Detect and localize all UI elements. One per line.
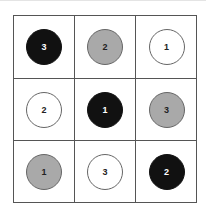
disc-white: 1 [149,29,185,65]
disc-white: 3 [87,154,123,190]
disc-label: 3 [102,167,107,177]
top-divider [0,0,206,1]
grid-cell-r3-c3[interactable]: 2 [136,141,197,203]
disc-gray: 1 [26,154,62,190]
grid-cell-r3-c2[interactable]: 3 [75,141,136,203]
puzzle-grid: 3 2 1 2 1 3 1 3 2 [13,15,197,203]
grid-cell-r1-c1[interactable]: 3 [14,16,75,79]
disc-gray: 2 [87,29,123,65]
disc-label: 1 [41,167,46,177]
grid-cell-r2-c2[interactable]: 1 [75,79,136,141]
disc-black: 1 [87,92,123,128]
disc-label: 2 [102,42,107,52]
grid-cell-r3-c1[interactable]: 1 [14,141,75,203]
grid-cell-r1-c2[interactable]: 2 [75,16,136,79]
disc-white: 2 [26,92,62,128]
disc-black: 3 [26,29,62,65]
disc-gray: 3 [149,92,185,128]
disc-label: 1 [164,42,169,52]
grid-cell-r2-c1[interactable]: 2 [14,79,75,141]
disc-label: 1 [102,105,107,115]
disc-black: 2 [149,154,185,190]
disc-label: 3 [41,42,46,52]
grid-cell-r2-c3[interactable]: 3 [136,79,197,141]
disc-label: 2 [41,105,46,115]
disc-label: 3 [164,105,169,115]
disc-label: 2 [164,167,169,177]
grid-cell-r1-c3[interactable]: 1 [136,16,197,79]
